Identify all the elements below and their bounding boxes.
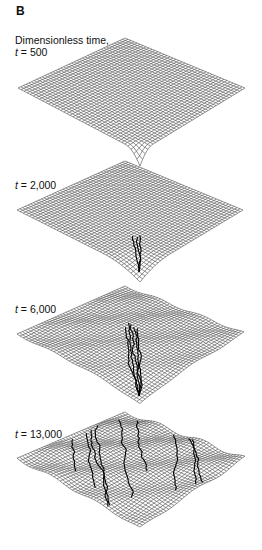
surface-mesh-t13000	[0, 0, 262, 550]
